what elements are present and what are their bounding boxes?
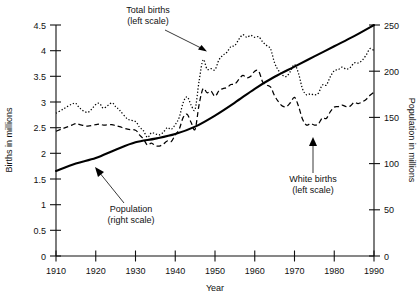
y-tick-label-3.5: 3.5	[33, 72, 46, 82]
y2-tick-label-100: 100	[384, 159, 399, 169]
annotation-white-births-arrowhead	[309, 137, 317, 146]
chart-figure: 4.5 4 3.5 3 2.5 2 1.5 1 0.5 0 250 200 15…	[0, 0, 417, 299]
series-line-white-births	[56, 70, 374, 146]
annotation-white-births-line2: (left scale)	[292, 185, 334, 195]
y2-tick-label-200: 200	[384, 67, 399, 77]
x-tick-label-1990: 1990	[364, 266, 384, 276]
annotation-population-leader	[99, 172, 124, 203]
x-tick-label-1950: 1950	[205, 266, 225, 276]
x-tick-label-1940: 1940	[165, 266, 185, 276]
annotation-population-line2: (right scale)	[107, 215, 154, 225]
annotation-population: Population (right scale)	[95, 167, 155, 225]
x-axis-title: Year	[206, 283, 224, 293]
y-tick-label-0: 0	[41, 252, 46, 262]
annotation-white-births-line1: White births	[289, 174, 337, 184]
x-tick-label-1930: 1930	[125, 266, 145, 276]
y-tick-label-2.5: 2.5	[33, 123, 46, 133]
y-axis-right-title: Population in millions	[407, 98, 417, 183]
y-tick-label-4: 4	[41, 46, 46, 56]
y2-tick-label-50: 50	[384, 205, 394, 215]
y2-tick-label-0: 0	[384, 252, 389, 262]
y2-tick-label-250: 250	[384, 21, 399, 31]
x-tick-label-1960: 1960	[245, 266, 265, 276]
y-tick-label-1: 1	[41, 200, 46, 210]
y-tick-label-3: 3	[41, 98, 46, 108]
y-axis-left-ticks: 4.5 4 3.5 3 2.5 2 1.5 1 0.5 0	[33, 21, 61, 262]
x-axis-ticks: 1910 1920 1930 1940 1950 1960 1970 1980 …	[46, 251, 384, 277]
y-tick-label-1.5: 1.5	[33, 175, 46, 185]
annotation-population-arrowhead	[95, 167, 104, 177]
y2-tick-label-150: 150	[384, 113, 399, 123]
annotation-total-births-line1: Total births	[126, 5, 170, 15]
x-tick-label-1970: 1970	[284, 266, 304, 276]
annotation-total-births-arrowhead	[198, 45, 207, 52]
annotation-total-births-leader	[165, 30, 205, 50]
annotation-total-births: Total births (left scale)	[126, 5, 207, 52]
x-tick-label-1980: 1980	[324, 266, 344, 276]
data-series-group	[56, 25, 374, 171]
annotation-white-births: White births (left scale)	[289, 137, 337, 195]
axes-group	[56, 25, 374, 256]
y-tick-label-2: 2	[41, 149, 46, 159]
y-axis-left-title: Births in millions	[4, 107, 14, 173]
chart-svg: 4.5 4 3.5 3 2.5 2 1.5 1 0.5 0 250 200 15…	[0, 0, 417, 299]
x-tick-label-1920: 1920	[86, 266, 106, 276]
y-tick-label-0.5: 0.5	[33, 226, 46, 236]
x-tick-label-1910: 1910	[46, 266, 66, 276]
annotation-total-births-line2: (left scale)	[127, 16, 169, 26]
annotation-population-line1: Population	[110, 204, 153, 214]
y-tick-label-4.5: 4.5	[33, 21, 46, 31]
series-line-population	[56, 25, 374, 171]
